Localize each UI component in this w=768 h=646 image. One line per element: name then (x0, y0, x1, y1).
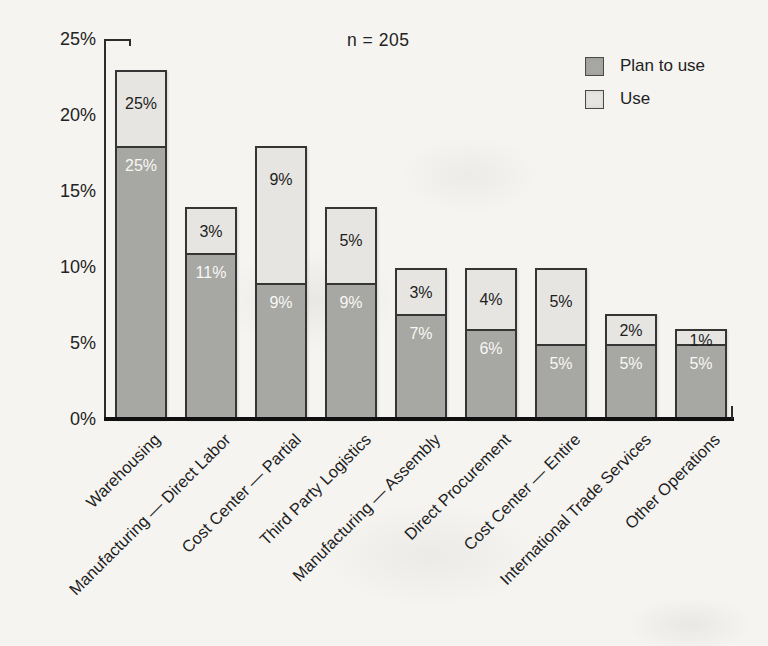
bar-segment-plan-to-use: 9% (257, 285, 305, 418)
segment-label-use: 2% (607, 316, 655, 340)
bar-segment-plan-to-use: 5% (537, 346, 585, 418)
bar-segment-use: 5% (537, 270, 585, 346)
y-axis-top-tick (104, 39, 131, 41)
segment-label-plan-to-use: 9% (327, 285, 375, 312)
bar-manufacturing-assembly: 3%7% (395, 268, 447, 420)
y-tick-label-20: 20% (36, 105, 96, 126)
bar-segment-use: 3% (187, 209, 235, 255)
legend-item-plan-to-use: Plan to use (585, 56, 705, 76)
segment-label-use: 9% (257, 148, 305, 189)
legend-label-plan-to-use: Plan to use (620, 56, 705, 76)
bar-segment-use: 3% (397, 270, 445, 316)
x-tick-label-manufacturing-assembly: Manufacturing — Assembly (289, 430, 444, 585)
x-axis-end-tick (731, 406, 733, 419)
segment-label-use: 5% (537, 270, 585, 311)
y-axis-top-tick-stub (129, 39, 131, 46)
legend: Plan to use Use (585, 56, 705, 122)
y-tick-label-15: 15% (36, 181, 96, 202)
segment-label-use: 25% (117, 72, 165, 113)
bar-segment-use: 4% (467, 270, 515, 331)
segment-label-use: 5% (327, 209, 375, 250)
bar-third-party-logistics: 5%9% (325, 207, 377, 420)
x-tick-label-cost-center-partial: Cost Center — Partial (178, 430, 305, 557)
segment-label-plan-to-use: 5% (677, 346, 725, 373)
bar-segment-plan-to-use: 5% (607, 346, 655, 418)
bar-segment-plan-to-use: 11% (187, 255, 235, 418)
legend-label-use: Use (620, 89, 650, 109)
bar-segment-plan-to-use: 25% (117, 148, 165, 418)
bar-segment-plan-to-use: 9% (327, 285, 375, 418)
bar-segment-use: 1% (677, 331, 725, 346)
sample-size-annotation: n = 205 (347, 30, 409, 51)
bar-segment-use: 9% (257, 148, 305, 285)
bar-warehousing: 25%25% (115, 70, 167, 420)
x-tick-label-cost-center-entire: Cost Center — Entire (460, 430, 584, 554)
bar-segment-use: 2% (607, 316, 655, 346)
segment-label-plan-to-use: 25% (117, 148, 165, 175)
segment-label-use: 4% (467, 270, 515, 309)
legend-swatch-plan-to-use (585, 57, 604, 76)
segment-label-plan-to-use: 7% (397, 316, 445, 343)
bar-segment-plan-to-use: 7% (397, 316, 445, 418)
bar-manufacturing-direct-labor: 3%11% (185, 207, 237, 420)
bar-segment-use: 25% (117, 72, 165, 148)
bar-international-trade-services: 2%5% (605, 314, 657, 420)
bar-cost-center-entire: 5%5% (535, 268, 587, 420)
bar-cost-center-partial: 9%9% (255, 146, 307, 420)
bar-other-operations: 1%5% (675, 329, 727, 420)
x-axis-line (104, 417, 734, 421)
segment-label-plan-to-use: 11% (187, 255, 235, 282)
y-tick-label-0: 0% (36, 409, 96, 430)
y-tick-label-25: 25% (36, 29, 96, 50)
segment-label-use: 3% (397, 270, 445, 302)
bar-segment-plan-to-use: 6% (467, 331, 515, 418)
bar-direct-procurement: 4%6% (465, 268, 517, 420)
segment-label-plan-to-use: 5% (537, 346, 585, 373)
y-tick-label-5: 5% (36, 333, 96, 354)
segment-label-use: 3% (187, 209, 235, 241)
y-tick-label-10: 10% (36, 257, 96, 278)
segment-label-plan-to-use: 5% (607, 346, 655, 373)
segment-label-plan-to-use: 9% (257, 285, 305, 312)
legend-item-use: Use (585, 89, 705, 109)
legend-swatch-use (585, 90, 604, 109)
bar-segment-use: 5% (327, 209, 375, 285)
segment-label-plan-to-use: 6% (467, 331, 515, 358)
y-axis-line (104, 39, 106, 420)
bar-segment-plan-to-use: 5% (677, 346, 725, 418)
